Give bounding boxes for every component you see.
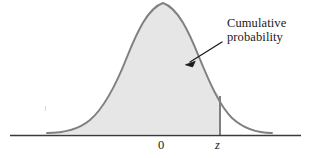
normal-distribution-figure: Cumulative probability 0 z (0, 0, 309, 158)
annotation-line-1: Cumulative (227, 16, 286, 30)
axis-label-z: z (215, 139, 220, 152)
annotation-line-2: probability (227, 31, 286, 44)
scan-artifact-speck (45, 106, 46, 111)
cumulative-probability-shaded-area (47, 3, 220, 134)
axis-label-origin: 0 (158, 139, 164, 152)
cumulative-probability-label: Cumulative probability (227, 17, 286, 44)
